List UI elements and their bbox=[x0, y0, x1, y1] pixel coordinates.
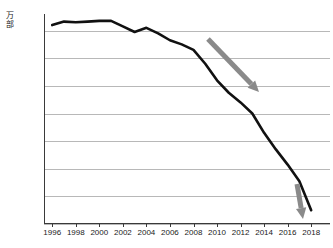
decline-arrow-mid bbox=[208, 39, 259, 92]
annotation-arrow-layer bbox=[0, 0, 333, 248]
chart-container: 万部 39004100430045004700490051005300 1996… bbox=[0, 0, 333, 248]
decline-arrow-end-head bbox=[296, 207, 306, 219]
decline-arrow-end-shaft bbox=[297, 184, 301, 208]
decline-arrow-mid-shaft bbox=[208, 39, 251, 84]
decline-arrow-end bbox=[296, 184, 306, 219]
